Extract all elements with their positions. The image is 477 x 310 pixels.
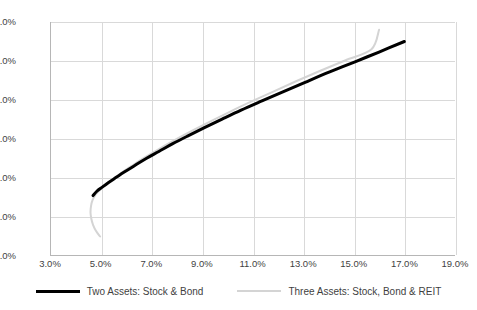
y-axis-tick-label: 9.0% [0,134,16,144]
y-axis-tick-label: 8.0% [0,173,16,183]
x-axis-tick-label: 9.0% [177,259,227,269]
y-axis-tick-label: 12.0% [0,17,16,27]
gridline-vertical [152,22,153,255]
x-axis-tick-label: 13.0% [278,259,328,269]
gridline-vertical [254,22,255,255]
x-axis-tick-label: 5.0% [76,259,126,269]
y-axis-tick-label: 11.0% [0,56,16,66]
efficient-frontier-chart: 6.0%7.0%8.0%9.0%10.0%11.0%12.0% 3.0%5.0%… [0,0,477,310]
x-axis-tick-label: 19.0% [430,259,477,269]
legend-label-two-assets: Two Assets: Stock & Bond [87,286,204,297]
gridline-vertical [102,22,103,255]
chart-legend: Two Assets: Stock & Bond Three Assets: S… [0,281,477,301]
x-axis-tick-label: 15.0% [329,259,379,269]
legend-item-three-assets[interactable]: Three Assets: Stock, Bond & REIT [237,286,441,297]
y-axis-tick-label: 10.0% [0,95,16,105]
y-axis-tick-label: 6.0% [0,251,16,261]
gridline-vertical [405,22,406,255]
legend-line-swatch-icon [237,290,281,292]
gridline-vertical [304,22,305,255]
legend-item-two-assets[interactable]: Two Assets: Stock & Bond [36,286,204,297]
gridline-vertical [203,22,204,255]
x-axis-tick-label: 3.0% [25,259,75,269]
plot-area [50,22,455,256]
gridline-vertical [355,22,356,255]
legend-label-three-assets: Three Assets: Stock, Bond & REIT [288,286,441,297]
gridline-vertical [456,22,457,255]
x-axis-tick-label: 11.0% [228,259,278,269]
x-axis-tick-label: 17.0% [379,259,429,269]
x-axis-tick-label: 7.0% [126,259,176,269]
legend-line-swatch-icon [36,290,80,293]
y-axis-tick-label: 7.0% [0,212,16,222]
